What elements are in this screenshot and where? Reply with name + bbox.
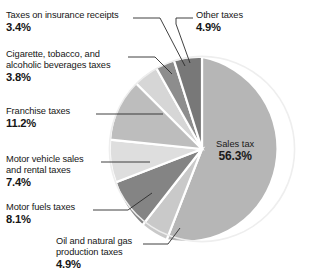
- callout-motor-fuels-taxes: Motor fuels taxes 8.1%: [6, 202, 75, 225]
- callout-franchise-value: 11.2%: [6, 118, 70, 129]
- inner-label-sales-tax-value: 56.3%: [216, 151, 254, 163]
- callout-oil-gas-value: 4.9%: [56, 259, 132, 270]
- callout-motor-vehicle-value: 7.4%: [6, 177, 84, 188]
- callout-motor-vehicle-line2: and rental taxes: [6, 165, 71, 175]
- callout-cigarette-line1: Cigarette, tobacco, and: [6, 49, 100, 59]
- callout-motor-vehicle-sales: Motor vehicle sales and rental taxes 7.4…: [6, 154, 84, 189]
- inner-label-sales-tax: Sales tax 56.3%: [216, 139, 254, 162]
- callout-motor-fuels-value: 8.1%: [6, 214, 75, 225]
- callout-other-taxes-value: 4.9%: [196, 22, 243, 33]
- callout-franchise-line1: Franchise taxes: [6, 106, 70, 116]
- callout-cigarette-line2: alcoholic beverages taxes: [6, 60, 110, 70]
- callout-oil-gas-line1: Oil and natural gas: [56, 236, 132, 246]
- pie-chart: Taxes on insurance receipts 3.4% Cigaret…: [0, 0, 309, 277]
- callout-oil-and-natural-gas: Oil and natural gas production taxes 4.9…: [56, 236, 132, 271]
- callout-oil-gas-line2: production taxes: [56, 247, 123, 257]
- callout-other-taxes: Other taxes 4.9%: [196, 10, 243, 33]
- pie-chart-canvas: [0, 0, 309, 277]
- callout-motor-fuels-line1: Motor fuels taxes: [6, 202, 75, 212]
- callout-franchise-taxes: Franchise taxes 11.2%: [6, 106, 70, 129]
- inner-label-sales-tax-name: Sales tax: [216, 139, 254, 149]
- callout-cigarette-tobacco-alcohol: Cigarette, tobacco, and alcoholic bevera…: [6, 49, 110, 84]
- callout-insurance-receipts-value: 3.4%: [6, 22, 119, 33]
- callout-insurance-receipts: Taxes on insurance receipts 3.4%: [6, 10, 119, 33]
- callout-insurance-receipts-line1: Taxes on insurance receipts: [6, 10, 119, 20]
- callout-cigarette-value: 3.8%: [6, 72, 110, 83]
- callout-other-taxes-line1: Other taxes: [196, 10, 243, 20]
- callout-motor-vehicle-line1: Motor vehicle sales: [6, 154, 84, 164]
